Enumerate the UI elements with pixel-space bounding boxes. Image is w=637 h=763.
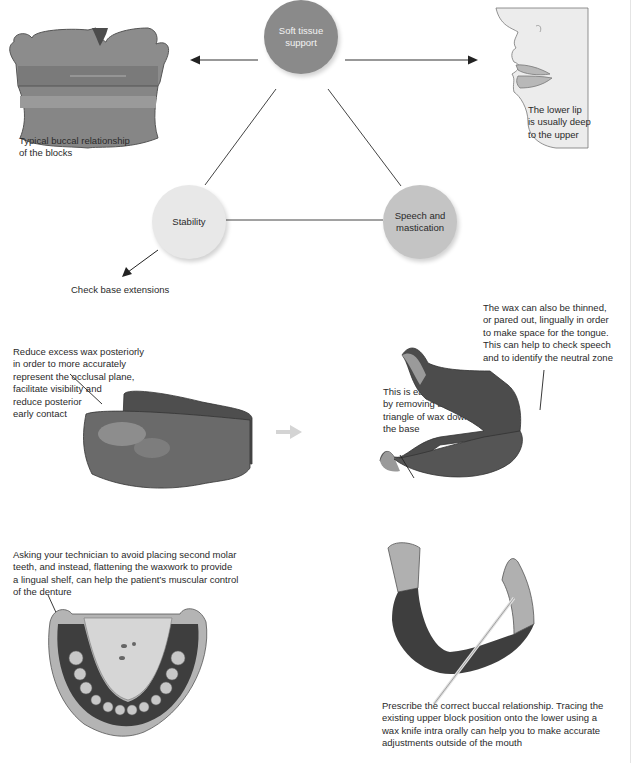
node-label: Soft tissue xyxy=(279,25,323,37)
node-label: Speech and xyxy=(395,210,446,222)
wax-knife-tracing-illustration xyxy=(384,540,544,710)
prescribe-caption: Prescribe the correct buccal relationshi… xyxy=(382,700,603,750)
node-stability: Stability xyxy=(152,185,226,259)
technician-caption: Asking your technician to avoid placing … xyxy=(13,549,238,599)
lip-caption-line: to the upper xyxy=(528,129,591,141)
caption-line: The wax can also be thinned, xyxy=(483,302,613,314)
node-speech-mastication: Speech and mastication xyxy=(383,185,457,259)
caption-line: wax knife intra orally can help you to m… xyxy=(382,725,603,737)
check-base-caption: Check base extensions xyxy=(71,284,169,296)
lip-caption-line: is usually deep xyxy=(528,116,591,128)
caption-line: of the denture xyxy=(13,586,238,598)
node-label: Stability xyxy=(172,216,205,228)
node-label: support xyxy=(279,37,323,49)
lip-caption: The lower lip is usually deep to the upp… xyxy=(528,104,591,141)
trimmed-wax-rim-illustration xyxy=(380,345,540,485)
node-soft-tissue-support: Soft tissue support xyxy=(264,0,338,74)
wax-block-oblique-illustration xyxy=(82,384,262,494)
caption-line: adjustments outside of the mouth xyxy=(382,737,603,749)
caption-line: in order to more accurately xyxy=(13,358,144,370)
caption-line: to make space for the tongue. xyxy=(483,327,613,339)
caption-line: Asking your technician to avoid placing … xyxy=(13,549,238,561)
caption-line: or pared out, lingually in order xyxy=(483,314,613,326)
caption-line: Reduce excess wax posteriorly xyxy=(13,346,144,358)
caption-line: existing upper block position onto the l… xyxy=(382,712,603,724)
caption-line: Prescribe the correct buccal relationshi… xyxy=(382,700,603,712)
node-label: mastication xyxy=(395,222,446,234)
lower-denture-occlusal-illustration xyxy=(44,604,214,744)
caption-line: teeth, and instead, flattening the waxwo… xyxy=(13,561,238,573)
sequence-arrow-icon xyxy=(276,425,306,439)
lip-caption-line: The lower lip xyxy=(528,104,591,116)
caption-line: a lingual shelf, can help the patient’s … xyxy=(13,574,238,586)
